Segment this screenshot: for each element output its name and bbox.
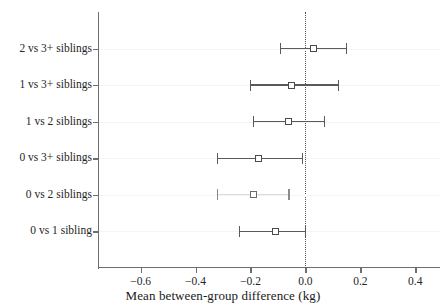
y-axis-label: 0 vs 2 siblings (26, 189, 92, 201)
y-axis-label: 2 vs 3+ siblings (19, 43, 92, 55)
y-axis-label: 1 vs 2 siblings (26, 116, 92, 128)
point-estimate-marker (272, 228, 279, 235)
ci-upper-cap (324, 116, 325, 127)
x-axis-label: 0.4 (408, 276, 422, 288)
x-axis-label: −0.2 (240, 276, 261, 288)
y-axis-tick (93, 122, 98, 123)
ci-lower-cap (217, 189, 218, 200)
y-axis-tick (93, 195, 98, 196)
y-axis-tick (93, 231, 98, 232)
point-estimate-marker (255, 155, 262, 162)
ci-upper-cap (346, 43, 347, 54)
ci-lower-cap (217, 153, 218, 164)
gridline (99, 49, 440, 50)
x-axis-tick (415, 268, 416, 273)
x-axis-tick (196, 268, 197, 273)
ci-lower-cap (250, 80, 251, 91)
x-axis-label: −0.4 (185, 276, 206, 288)
point-estimate-marker (288, 82, 295, 89)
y-axis-tick (93, 49, 98, 50)
x-axis-tick (250, 268, 251, 273)
x-axis-label: 0.2 (353, 276, 367, 288)
x-axis-title: Mean between-group difference (kg) (0, 288, 446, 304)
forest-plot-figure: 2 vs 3+ siblings1 vs 3+ siblings1 vs 2 s… (0, 0, 446, 306)
point-estimate-marker (250, 191, 257, 198)
ci-upper-cap (305, 226, 306, 237)
ci-upper-cap (288, 189, 289, 200)
y-axis-label: 0 vs 1 sibling (30, 225, 92, 237)
x-axis-tick (305, 268, 306, 273)
ci-lower-cap (239, 226, 240, 237)
y-axis-label: 1 vs 3+ siblings (19, 79, 92, 91)
y-axis-tick (93, 85, 98, 86)
point-estimate-marker (285, 118, 292, 125)
y-axis-tick (93, 158, 98, 159)
x-axis-tick (360, 268, 361, 273)
ci-lower-cap (280, 43, 281, 54)
ci-upper-cap (302, 153, 303, 164)
ci-upper-cap (338, 80, 339, 91)
ci-lower-cap (253, 116, 254, 127)
x-axis-label: 0.0 (298, 276, 312, 288)
x-axis-line (98, 267, 440, 268)
x-axis-tick (141, 268, 142, 273)
x-axis-label: −0.6 (130, 276, 151, 288)
y-axis-label: 0 vs 3+ siblings (19, 152, 92, 164)
point-estimate-marker (310, 45, 317, 52)
